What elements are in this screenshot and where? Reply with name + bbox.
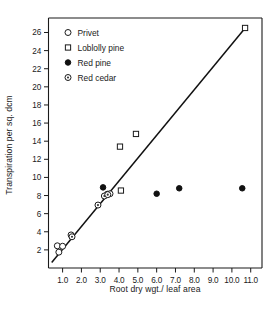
y-tick-label: 24 [32, 47, 41, 56]
x-tick-label: 10.0 [224, 276, 240, 285]
point-open-square [133, 131, 138, 136]
point-center-dot [107, 194, 109, 196]
point-open-square [242, 25, 247, 30]
y-tick-label: 22 [32, 65, 41, 74]
legend-label: Loblolly pine [78, 43, 125, 53]
y-tick-label: 14 [32, 137, 41, 146]
y-tick-label: 20 [32, 83, 41, 92]
point-open-square [117, 144, 122, 149]
x-axis-title: Root dry wgt./ leaf area [109, 284, 200, 294]
plot-canvas: 1.02.03.04.05.06.07.08.09.010.011.0 2468… [0, 0, 278, 318]
legend-marker-open-circle [65, 30, 71, 36]
x-tick-label: 2.0 [76, 276, 87, 285]
legend-marker-filled-circle [65, 60, 71, 66]
point-center-dot [97, 204, 99, 206]
y-tick-label: 16 [32, 119, 41, 128]
legend-label: Privet [78, 28, 100, 38]
y-tick-label: 26 [32, 28, 41, 37]
x-tick-label: 1.0 [57, 276, 68, 285]
x-tick-label: 3.0 [95, 276, 106, 285]
point-filled-circle [176, 186, 182, 192]
point-open-square [118, 188, 123, 193]
y-tick-label: 8 [37, 192, 42, 201]
x-tick-label: 9.0 [208, 276, 219, 285]
point-open-circle [60, 243, 66, 249]
point-filled-circle [154, 191, 160, 197]
point-filled-circle [100, 185, 106, 191]
y-tick-label: 2 [37, 246, 42, 255]
point-open-circle [56, 249, 62, 255]
point-center-dot [71, 236, 73, 238]
y-tick-label: 18 [32, 101, 41, 110]
figure-background [0, 0, 278, 318]
y-tick-label: 10 [32, 173, 41, 182]
legend-marker-center-dot [67, 76, 69, 78]
legend-label: Red cedar [78, 73, 117, 83]
y-axis-title: Transpiration per sq. dcm [4, 95, 14, 195]
y-tick-label: 12 [32, 155, 41, 164]
scatter-plot-figure: 1.02.03.04.05.06.07.08.09.010.011.0 2468… [0, 0, 278, 318]
legend-marker-open-square [65, 45, 70, 50]
x-tick-label: 11.0 [243, 276, 258, 285]
y-tick-label: 6 [37, 210, 42, 219]
y-tick-label: 4 [37, 228, 42, 237]
point-filled-circle [239, 186, 245, 192]
legend-label: Red pine [78, 58, 112, 68]
